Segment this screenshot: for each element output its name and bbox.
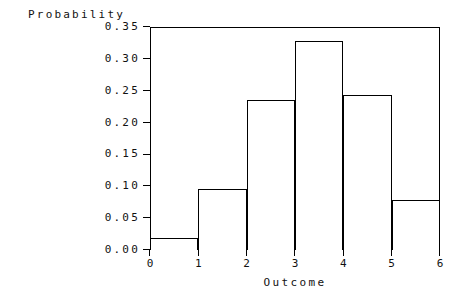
y-axis-tick [143,185,150,186]
x-axis-tick [391,250,392,256]
x-axis-tick [439,250,440,256]
x-axis-tick [294,250,295,256]
y-axis-tick [143,217,150,218]
plot-frame [150,27,440,250]
y-axis-tick-label-text: 0.00 [82,243,140,256]
y-axis-tick-label-text: 0.15 [82,147,140,160]
y-axis-tick [143,154,150,155]
y-axis-tick-label-text: 0.30 [82,52,140,65]
y-axis-tick [143,26,150,27]
y-axis-tick-label-text: 0.35 [82,20,140,33]
x-axis-tick-label: 4 [331,257,355,270]
y-axis-tick-label: 0.30 [78,52,140,64]
x-axis-tick-label: 5 [380,257,404,270]
x-axis-tick-label: 6 [428,257,452,270]
y-axis-tick-label: 0.25 [78,84,140,96]
x-axis-tick [149,250,150,256]
y-axis-tick [143,122,150,123]
x-axis-tick [246,250,247,256]
chart-page: Probability 0.000.050.100.150.200.250.30… [0,0,457,302]
x-axis-tick [343,250,344,256]
y-axis-tick-label: 0.15 [78,147,140,159]
x-axis-tick-label: 2 [235,257,259,270]
y-axis-tick-label: 0.00 [78,243,140,255]
y-axis-tick-label: 0.05 [78,211,140,223]
y-axis-tick-label-text: 0.05 [82,211,140,224]
x-axis-tick-label: 3 [283,257,307,270]
y-axis-tick-label-text: 0.10 [82,179,140,192]
x-axis-tick [198,250,199,256]
x-axis-tick-label: 1 [186,257,210,270]
y-axis-tick-label: 0.10 [78,179,140,191]
y-axis-tick [143,58,150,59]
x-axis-tick-label: 0 [138,257,162,270]
y-axis-tick-label: 0.35 [78,20,140,32]
y-axis-tick-label: 0.20 [78,116,140,128]
y-axis-tick-label-text: 0.20 [82,116,140,129]
x-axis-title: Outcome [150,276,440,289]
y-axis-tick-label-text: 0.25 [82,84,140,97]
y-axis-tick [143,90,150,91]
